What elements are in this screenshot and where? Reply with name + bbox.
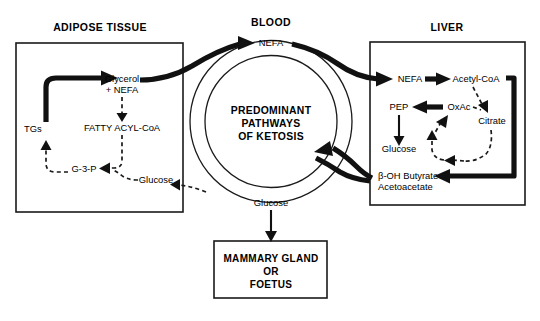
- node-adipose-fatty-acyl-coa: FATTY ACYL-CoA: [84, 122, 161, 133]
- arrow-tca-left-up: [432, 140, 444, 160]
- arrow-adipose-glucose-to-g3p: [112, 169, 138, 180]
- arrow-citrate-cycle-lower-right: [464, 130, 491, 161]
- heading-liver: LIVER: [431, 21, 464, 33]
- target-box-line-2: OR: [263, 266, 279, 277]
- ketosis-pathway-diagram: ADIPOSE TISSUE BLOOD LIVER PREDOMINANT P…: [0, 0, 540, 321]
- node-liver-citrate: Citrate: [478, 115, 506, 126]
- node-adipose-glucose: Glucose: [139, 174, 173, 185]
- heading-adipose-tissue: ADIPOSE TISSUE: [53, 21, 147, 33]
- arrow-acetyl-coa-to-citrate: [473, 87, 483, 106]
- node-adipose-glycerol: Glycerol: [105, 73, 139, 84]
- arrowhead-acetyl-coa-to-citrate: [478, 100, 488, 113]
- node-adipose-g3p: G-3-P: [71, 163, 96, 174]
- node-liver-nefa: NEFA: [398, 73, 423, 84]
- arrowhead-blood-nefa-to-liver: [376, 72, 393, 87]
- arrow-tgs-to-glycerol: [46, 78, 103, 122]
- pathway-svg-canvas: ADIPOSE TISSUE BLOOD LIVER PREDOMINANT P…: [0, 0, 540, 321]
- heading-blood: BLOOD: [251, 16, 291, 28]
- arrowhead-oxac-to-pep: [412, 101, 427, 114]
- blood-center-line-1: PREDOMINANT: [231, 105, 312, 116]
- blood-center-line-2: PATHWAYS: [242, 118, 301, 129]
- arrowhead-fatty-acyl-coa-to-g3p: [99, 163, 110, 175]
- arrow-oxac-to-citrate-link: [473, 107, 481, 110]
- node-blood-glucose: Glucose: [254, 197, 288, 208]
- blood-center-line-3: OF KETOSIS: [238, 131, 304, 142]
- node-liver-acetoacetate: Acetoacetate: [378, 181, 433, 192]
- node-liver-pep: PEP: [390, 101, 409, 112]
- node-adipose-nefa: + NEFA: [106, 84, 139, 95]
- node-liver-beta-oh-butyrate: β-OH Butyrate: [378, 170, 438, 181]
- arrow-acetyl-coa-to-ketones: [448, 78, 514, 176]
- arrowhead-g3p-to-tgs: [41, 140, 52, 150]
- node-adipose-tgs: TGs: [24, 123, 42, 134]
- target-box-line-3: FOETUS: [250, 279, 292, 290]
- arrowhead-glycerol-to-fatty-acyl-coa: [117, 113, 128, 122]
- arrowhead-liver-nefa-to-acetyl-coa: [436, 73, 451, 86]
- arrowhead-into-oxac-diagonal: [436, 115, 448, 128]
- target-box-line-1: MAMMARY GLAND: [223, 253, 318, 264]
- arrow-blood-glucose-to-adipose-glucose: [180, 185, 206, 192]
- node-liver-acetyl-coa: Acetyl-CoA: [453, 73, 501, 84]
- node-liver-oxac: OxAc: [448, 101, 471, 112]
- arrowhead-tca-bottom: [444, 155, 455, 166]
- node-blood-nefa: NEFA: [259, 37, 284, 48]
- arrow-into-oxac-diagonal: [432, 124, 440, 138]
- arrow-fatty-acyl-coa-to-g3p: [108, 135, 122, 168]
- arrow-g3p-to-tgs: [46, 150, 68, 172]
